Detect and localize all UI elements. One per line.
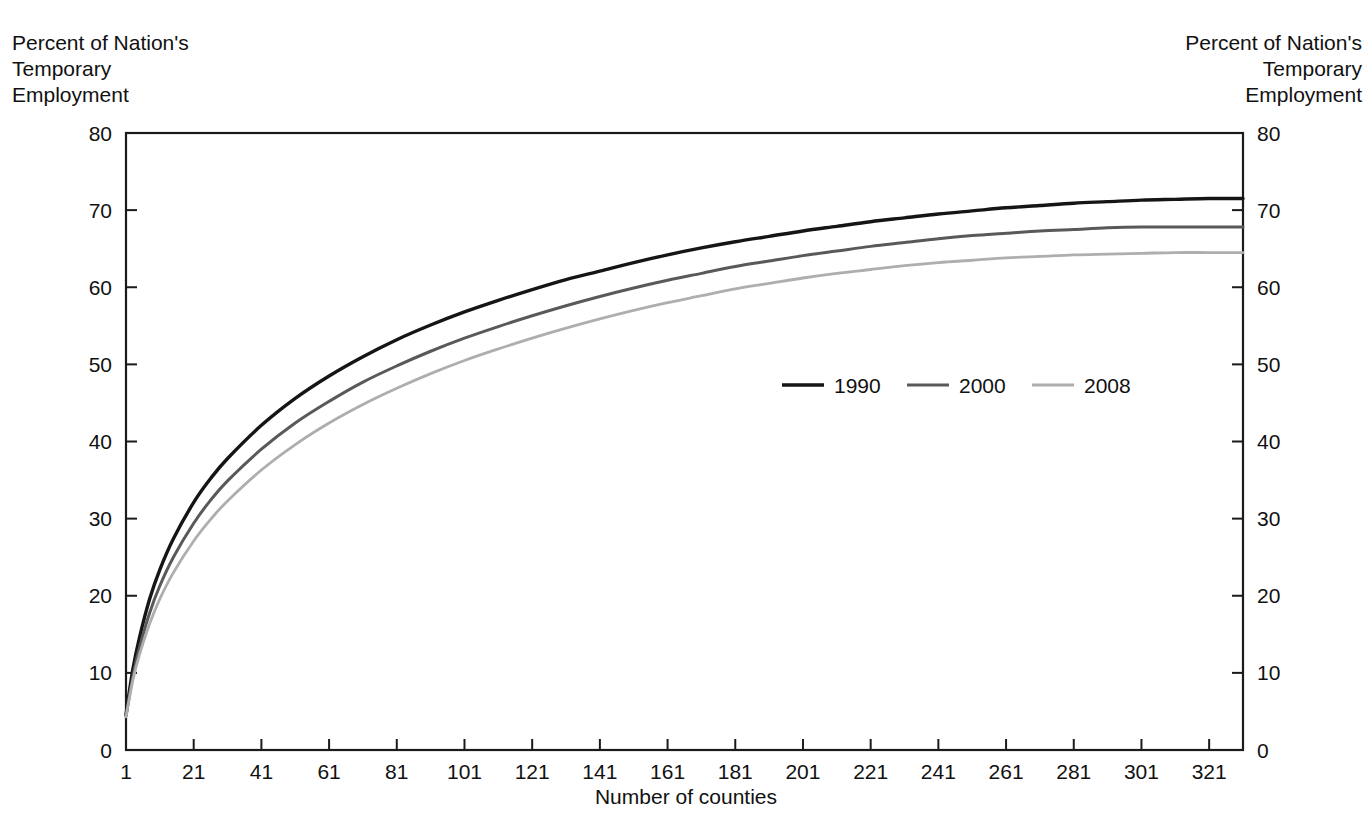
y-tick-label-right: 10 (1257, 661, 1280, 684)
x-tick-label: 241 (921, 760, 956, 783)
y-tick-label-left: 10 (89, 661, 112, 684)
y-tick-label-right: 50 (1257, 353, 1280, 376)
y-tick-label-left: 50 (89, 353, 112, 376)
x-tick-label: 61 (317, 760, 340, 783)
x-tick-label: 141 (582, 760, 617, 783)
y-tick-label-right: 40 (1257, 430, 1280, 453)
x-tick-label: 121 (515, 760, 550, 783)
y-tick-label-right: 70 (1257, 199, 1280, 222)
y-tick-label-right: 60 (1257, 276, 1280, 299)
x-tick-label: 261 (989, 760, 1024, 783)
x-tick-label: 201 (785, 760, 820, 783)
x-tick-label: 281 (1056, 760, 1091, 783)
x-tick-label: 301 (1124, 760, 1159, 783)
legend-label-1990: 1990 (834, 374, 881, 397)
x-tick-label: 41 (250, 760, 273, 783)
y-tick-label-left: 70 (89, 199, 112, 222)
x-tick-label: 321 (1192, 760, 1227, 783)
x-tick-label: 101 (447, 760, 482, 783)
plot-frame (126, 133, 1243, 750)
x-tick-label: 221 (853, 760, 888, 783)
x-tick-label: 81 (385, 760, 408, 783)
legend-label-2008: 2008 (1084, 374, 1131, 397)
y-tick-label-right: 20 (1257, 584, 1280, 607)
y-tick-label-left: 40 (89, 430, 112, 453)
x-tick-label: 161 (650, 760, 685, 783)
x-tick-label: 1 (120, 760, 132, 783)
y-tick-label-left: 30 (89, 507, 112, 530)
series-line-2008 (126, 252, 1243, 716)
x-tick-label: 181 (718, 760, 753, 783)
legend-label-2000: 2000 (959, 374, 1006, 397)
x-tick-label: 21 (182, 760, 205, 783)
y-tick-label-left: 80 (89, 122, 112, 145)
y-tick-label-left: 0 (100, 739, 112, 762)
chart-figure: Percent of Nation's Temporary Employment… (0, 0, 1372, 834)
plot-area: 0010102020303040405050606070708080121416… (0, 0, 1372, 834)
y-tick-label-left: 60 (89, 276, 112, 299)
y-tick-label-right: 30 (1257, 507, 1280, 530)
y-tick-label-right: 0 (1257, 739, 1269, 762)
x-axis-title: Number of counties (0, 785, 1372, 809)
y-tick-label-left: 20 (89, 584, 112, 607)
y-tick-label-right: 80 (1257, 122, 1280, 145)
